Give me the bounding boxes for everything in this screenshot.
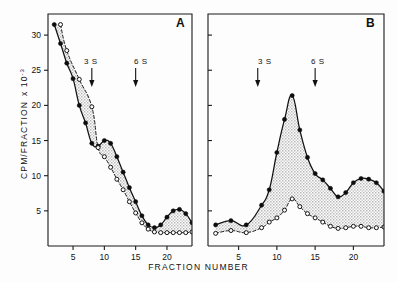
svg-text:20: 20 [162,252,172,262]
sedimentation-profile-chart: 5101520510152025305101520 [0,0,397,282]
svg-text:5: 5 [71,252,76,262]
svg-text:25: 25 [32,65,42,75]
svg-text:5: 5 [36,206,41,216]
svg-text:15: 15 [32,136,42,146]
figure-container: 5101520510152025305101520 A B 3 S 6 S 3 … [0,0,397,282]
svg-text:20: 20 [349,252,359,262]
svg-text:15: 15 [131,252,141,262]
axis-labels: 5101520510152025305101520 [32,30,359,262]
svg-text:5: 5 [236,252,241,262]
svg-text:20: 20 [32,100,42,110]
svg-text:10: 10 [100,252,110,262]
svg-text:10: 10 [32,171,42,181]
svg-text:15: 15 [310,252,320,262]
svg-text:30: 30 [32,30,42,40]
shaded-areas [54,25,384,234]
svg-text:10: 10 [272,252,282,262]
